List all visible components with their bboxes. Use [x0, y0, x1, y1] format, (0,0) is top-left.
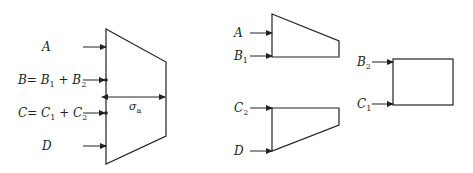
- b: B: [18, 73, 27, 87]
- eq: =: [27, 106, 41, 120]
- c1: C: [357, 97, 366, 111]
- middle-top-trapezoid: [250, 14, 339, 57]
- label-right-b2: B2: [357, 56, 371, 73]
- c2: C: [234, 101, 243, 115]
- c: C: [18, 106, 27, 120]
- right-rectangle: [372, 59, 453, 105]
- label-mid-c2: C2: [234, 102, 248, 119]
- c2-sub: 2: [243, 108, 248, 117]
- b2-sub: 2: [81, 80, 86, 89]
- plus: +: [55, 106, 73, 120]
- c1: C: [41, 106, 50, 120]
- label-c-equation: C= C1 + C2: [18, 107, 87, 124]
- dot-b: [104, 78, 108, 82]
- label-right-c1: C1: [357, 98, 371, 115]
- b2-sub: 2: [366, 62, 371, 71]
- b1: B: [234, 49, 243, 63]
- plus: +: [55, 73, 73, 87]
- dot-c: [104, 111, 108, 115]
- b2: B: [357, 55, 366, 69]
- sigma: σ: [129, 100, 137, 113]
- c2: C: [73, 106, 82, 120]
- c2-sub: 2: [82, 113, 87, 122]
- middle-bottom-trapezoid: [250, 108, 339, 151]
- label-sigma-a: σa: [129, 101, 141, 117]
- label-b-equation: B= B1 + B2: [18, 74, 86, 91]
- c1-sub: 1: [366, 104, 371, 113]
- left-trapezoid: [83, 29, 166, 164]
- label-mid-a: A: [234, 27, 243, 39]
- b1-sub: 1: [243, 56, 248, 65]
- sigma-sub: a: [137, 106, 142, 115]
- label-mid-d: D: [234, 145, 244, 157]
- b1: B: [41, 73, 50, 87]
- label-d: D: [42, 140, 52, 152]
- label-a: A: [42, 41, 51, 53]
- label-mid-b1: B1: [234, 50, 248, 67]
- b2: B: [72, 73, 81, 87]
- eq: =: [27, 73, 41, 87]
